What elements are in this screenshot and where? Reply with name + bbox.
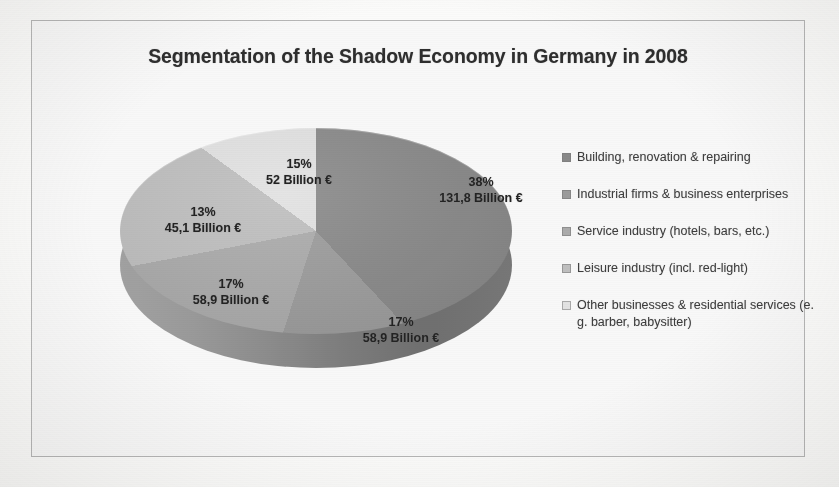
pie-slice-value: 45,1 Billion € bbox=[128, 220, 278, 236]
pie-chart: 38% 131,8 Billion € 17% 58,9 Billion € 1… bbox=[92, 106, 532, 436]
legend-swatch-icon bbox=[562, 301, 571, 310]
legend-swatch-icon bbox=[562, 227, 571, 236]
legend-item-label: Other businesses & residential services … bbox=[577, 297, 827, 331]
pie-slice-percent: 15% bbox=[224, 156, 374, 172]
pie-slice-value: 58,9 Billion € bbox=[326, 330, 476, 346]
pie-slice-value: 52 Billion € bbox=[224, 172, 374, 188]
legend-item-industrial: Industrial firms & business enterprises bbox=[562, 186, 839, 203]
pie-slice-percent: 13% bbox=[128, 204, 278, 220]
legend-item-leisure: Leisure industry (incl. red-light) bbox=[562, 260, 839, 277]
chart-page: Segmentation of the Shadow Economy in Ge… bbox=[0, 0, 839, 487]
pie-slice-value: 131,8 Billion € bbox=[406, 190, 556, 206]
chart-legend: Building, renovation & repairing Industr… bbox=[562, 149, 839, 351]
chart-title: Segmentation of the Shadow Economy in Ge… bbox=[32, 45, 804, 68]
pie-slice-percent: 38% bbox=[406, 174, 556, 190]
legend-item-label: Leisure industry (incl. red-light) bbox=[577, 260, 748, 277]
pie-graphic: 38% 131,8 Billion € 17% 58,9 Billion € 1… bbox=[120, 128, 512, 388]
pie-slice-value: 58,9 Billion € bbox=[156, 292, 306, 308]
legend-item-service: Service industry (hotels, bars, etc.) bbox=[562, 223, 839, 240]
chart-frame: Segmentation of the Shadow Economy in Ge… bbox=[31, 20, 805, 457]
pie-slice-label-service: 17% 58,9 Billion € bbox=[156, 276, 306, 308]
pie-slice-label-building: 38% 131,8 Billion € bbox=[406, 174, 556, 206]
legend-item-label: Industrial firms & business enterprises bbox=[577, 186, 788, 203]
pie-slice-label-leisure: 13% 45,1 Billion € bbox=[128, 204, 278, 236]
legend-swatch-icon bbox=[562, 153, 571, 162]
legend-item-building: Building, renovation & repairing bbox=[562, 149, 839, 166]
legend-swatch-icon bbox=[562, 190, 571, 199]
legend-item-other: Other businesses & residential services … bbox=[562, 297, 839, 331]
pie-slice-percent: 17% bbox=[326, 314, 476, 330]
pie-slice-label-other: 15% 52 Billion € bbox=[224, 156, 374, 188]
pie-slice-percent: 17% bbox=[156, 276, 306, 292]
legend-item-label: Service industry (hotels, bars, etc.) bbox=[577, 223, 769, 240]
pie-slice-label-industrial: 17% 58,9 Billion € bbox=[326, 314, 476, 346]
legend-item-label: Building, renovation & repairing bbox=[577, 149, 751, 166]
legend-swatch-icon bbox=[562, 264, 571, 273]
